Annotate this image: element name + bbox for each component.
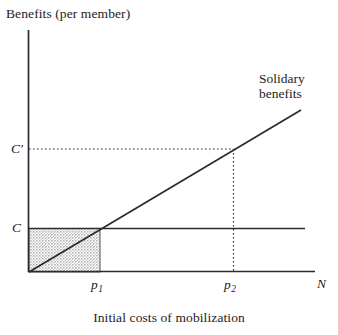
plot-canvas [0,0,338,335]
x-tick-label-p1-subscript: 1 [98,284,103,294]
solidary-benefits-line [29,110,301,272]
x-tick-label-p2-base: p [224,277,231,292]
x-tick-label-p2-subscript: 2 [231,284,236,294]
x-tick-label-p1-base: p [91,277,98,292]
y-tick-label-c-prime: C′ [11,141,23,157]
y-tick-label-c: C [12,220,21,236]
solidary-benefits-figure: Benefits (per member) Solidary benefits … [0,0,338,335]
solidary-benefits-label: Solidary benefits [259,71,305,101]
x-axis-caption: Initial costs of mobilization [0,310,338,326]
x-axis-end-label-n: N [317,276,326,292]
solidary-benefits-label-line2: benefits [259,86,305,101]
x-tick-label-p2: p2 [224,277,236,293]
solidary-benefits-label-line1: Solidary [259,71,305,86]
x-tick-label-p1: p1 [91,277,103,293]
